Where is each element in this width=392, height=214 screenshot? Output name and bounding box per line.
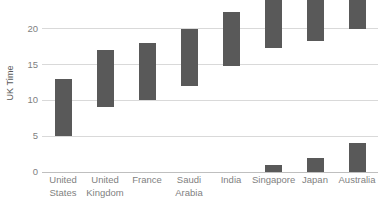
x-label-united-kingdom: United Kingdom (84, 174, 126, 199)
bar-australia (349, 0, 366, 29)
bar-singapore (265, 0, 282, 48)
y-axis-tick-labels: 05101520 (0, 0, 38, 214)
x-label-japan: Japan (294, 174, 336, 187)
chart-container: UK Time 05101520 United StatesUnited Kin… (0, 0, 392, 214)
bar-france (139, 43, 156, 100)
bar-united-kingdom (97, 50, 114, 107)
y-tick-label-20: 20 (2, 24, 38, 34)
y-tick-label-15: 15 (2, 60, 38, 70)
x-label-saudi-arabia: Saudi Arabia (168, 174, 210, 199)
x-label-india: India (210, 174, 252, 187)
bar-japan (307, 0, 324, 41)
y-tick-label-10: 10 (2, 96, 38, 106)
bar-japan-wrapped (307, 158, 324, 172)
bar-india (223, 12, 240, 66)
bar-singapore-wrapped (265, 165, 282, 172)
x-label-united-states: United States (42, 174, 84, 199)
bar-united-states (55, 79, 72, 136)
bar-australia-wrapped (349, 143, 366, 172)
bar-series-group (42, 0, 378, 172)
x-label-singapore: Singapore (252, 174, 294, 187)
plot-area (42, 0, 378, 172)
x-label-france: France (126, 174, 168, 187)
x-label-australia: Australia (336, 174, 378, 187)
x-axis-category-labels: United StatesUnited KingdomFranceSaudi A… (42, 174, 378, 214)
y-tick-label-0: 0 (2, 167, 38, 177)
y-tick-label-5: 5 (2, 131, 38, 141)
bar-saudi-arabia (181, 29, 198, 86)
